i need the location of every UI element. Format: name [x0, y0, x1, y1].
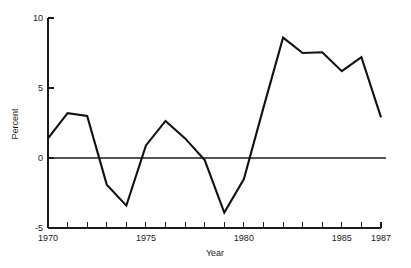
x-tick-label-1970: 1970 [38, 233, 58, 243]
y-tick-label-5: 5 [38, 83, 43, 93]
y-axis-title: Percent [10, 108, 20, 140]
line-chart: 10 5 0 -5 19701975198019851987 Percent Y… [0, 0, 411, 268]
x-tick-label-1980: 1980 [234, 233, 254, 243]
y-tick-label-minus5: -5 [35, 223, 43, 233]
x-tick-label-1975: 1975 [136, 233, 156, 243]
chart-figure: 10 5 0 -5 19701975198019851987 Percent Y… [0, 0, 411, 268]
x-axis-title: Year [206, 248, 224, 258]
x-tick-label-1987: 1987 [371, 233, 391, 243]
y-tick-label-0: 0 [38, 153, 43, 163]
y-tick-label-10: 10 [33, 13, 43, 23]
x-tick-label-1985: 1985 [332, 233, 352, 243]
